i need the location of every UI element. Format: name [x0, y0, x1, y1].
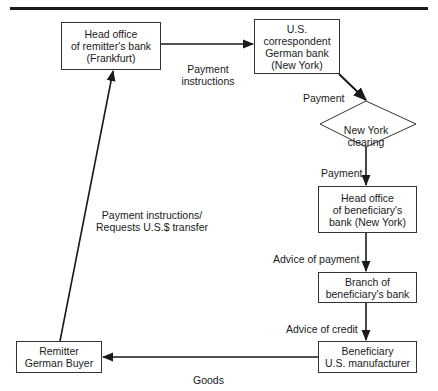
node-label: Remitter German Buyer: [25, 345, 93, 369]
node-us-correspondent: U.S. correspondent German bank (New York…: [254, 19, 340, 74]
label-payment-instructions: Payment instructions: [172, 51, 244, 87]
node-label: U.S. correspondent German bank (New York…: [263, 23, 330, 71]
label-advice-of-payment: Advice of payment: [273, 241, 359, 265]
node-remitter-head-office: Head office of remitter's bank (Frankfur…: [61, 22, 161, 70]
diagram-canvas: Head office of remitter's bank (Frankfur…: [0, 0, 438, 391]
node-label: Head office of remitter's bank (Frankfur…: [71, 28, 151, 64]
label-advice-of-credit: Advice of credit: [286, 311, 358, 335]
node-remitter: Remitter German Buyer: [16, 341, 102, 373]
label-goods: Goods: [193, 362, 224, 386]
label-payment-2: Payment: [321, 155, 362, 179]
node-ny-clearing: New York clearing: [330, 112, 402, 148]
node-beneficiary-head-office: Head office of beneficiary's bank (New Y…: [318, 186, 417, 233]
node-label: Head office of beneficiary's bank (New Y…: [329, 192, 406, 228]
node-label: New York clearing: [344, 124, 388, 148]
label-payment-1: Payment: [303, 80, 344, 104]
node-beneficiary-branch: Branch of beneficiary's bank: [318, 272, 417, 303]
top-rule: [10, 7, 428, 10]
node-label: Beneficiary U.S. manufacturer: [325, 345, 410, 369]
node-beneficiary: Beneficiary U.S. manufacturer: [318, 341, 417, 373]
label-payment-instructions-transfer: Payment instructions/ Requests U.S.$ tra…: [90, 197, 214, 233]
node-label: Branch of beneficiary's bank: [326, 276, 410, 300]
